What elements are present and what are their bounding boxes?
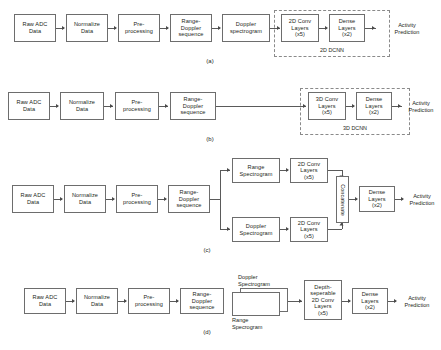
panel-c-node-normalize-label: Normalize Data (72, 192, 98, 205)
panel-c-node-dense-label: Dense Layers (x2) (368, 189, 385, 209)
panel-c-node-doppler-spectrogram: Doppler Spectrogram (232, 217, 280, 242)
panel-d-node-raw-adc: Raw ADC Data (24, 288, 66, 314)
panel-a-node-dense: Dense Layers (x2) (329, 14, 365, 42)
panel-d-arrow-1 (72, 299, 75, 303)
panel-c-node-preprocessing-label: Pre- processing (123, 192, 151, 205)
panel-b-arrow-5 (352, 104, 355, 108)
panel-b-arrow-2 (110, 104, 113, 108)
panel-c-node-rd-sequence: Range- Doppler sequence (168, 185, 210, 213)
panel-c-arrow-branch-top (227, 168, 230, 172)
panel-c-node-raw-adc-label: Raw ADC Data (21, 192, 46, 205)
panel-d-doppler-spectrogram-label: Doppler Spectrogram (238, 274, 296, 288)
panel-b-group-label: 3D DCNN (300, 125, 410, 131)
panel-c-node-range-spectrogram: Range Spectrogram (232, 158, 280, 183)
panel-d-node-raw-adc-label: Raw ADC Data (33, 294, 58, 307)
panel-b-node-preprocessing: Pre- processing (115, 92, 159, 120)
panel-d-arrow-2 (124, 299, 127, 303)
panel-a-arrow-2 (114, 26, 117, 30)
panel-b-node-rd-sequence-label: Range- Doppler sequence (180, 96, 205, 116)
panel-b-node-raw-adc-label: Raw ADC Data (17, 99, 42, 112)
panel-c-node-range-spectrogram-label: Range Spectrogram (239, 164, 272, 177)
panel-c-merge-bottom-line (328, 229, 342, 230)
panel-c-arrow-top-1 (286, 168, 289, 172)
panel-b-output-activity-prediction: Activity Prediction (400, 100, 441, 114)
panel-a-node-raw-adc-label: Raw ADC Data (23, 21, 48, 34)
panel-d-arrow-stack-conv (299, 299, 302, 303)
panel-b-node-3d-conv: 3D Conv Layers (x5) (308, 92, 346, 120)
panel-b-node-rd-sequence: Range- Doppler sequence (170, 92, 216, 120)
panel-d-caption: (d) (182, 329, 232, 335)
panel-a-node-rd-sequence-label: Range- Doppler sequence (178, 18, 203, 38)
panel-b-arrow-1 (56, 104, 59, 108)
panel-a-arrow-7 (372, 26, 375, 30)
panel-a-arrow-1 (62, 26, 65, 30)
panel-d-arrow-conv-dense (348, 299, 351, 303)
panel-d-node-depthwise-conv-label: Depth- seperable 2D Conv Layers (x5) (310, 284, 335, 317)
panel-d-node-preprocessing-label: Pre- processing (135, 294, 163, 307)
panel-a-node-doppler-spectrogram: Doppler spectrogram (222, 14, 270, 42)
panel-a-arrow-3 (166, 26, 169, 30)
panel-b-node-preprocessing-label: Pre- processing (123, 99, 151, 112)
panel-a-node-normalize: Normalize Data (66, 14, 108, 42)
panel-d-node-depthwise-conv: Depth- seperable 2D Conv Layers (x5) (304, 280, 342, 320)
panel-b-node-dense: Dense Layers (x2) (356, 92, 392, 120)
panel-c-arrow-1 (60, 197, 63, 201)
panel-a-node-2d-conv-label: 2D Conv Layers (x5) (289, 18, 311, 38)
panel-a-node-raw-adc: Raw ADC Data (14, 14, 56, 42)
panel-c-caption: (c) (182, 247, 232, 253)
panel-b-node-normalize: Normalize Data (60, 92, 104, 120)
panel-c-arrow-concat-dense (355, 197, 358, 201)
panel-d-range-spectrogram-plane (232, 292, 280, 316)
panel-c-node-2d-conv-top: 2D Conv Layers (x5) (290, 158, 328, 183)
panel-a-node-doppler-spectrogram-label: Doppler spectrogram (230, 21, 262, 34)
panel-b-node-normalize-label: Normalize Data (69, 99, 95, 112)
panel-d-output-activity-prediction: Activity Prediction (396, 295, 438, 309)
panel-c-arrow-branch-bottom (227, 227, 230, 231)
panel-c-node-doppler-spectrogram-label: Doppler Spectrogram (239, 223, 272, 236)
panel-a-arrow-4 (218, 26, 221, 30)
panel-a-node-dense-label: Dense Layers (x2) (338, 18, 355, 38)
panel-b-node-3d-conv-label: 3D Conv Layers (x5) (316, 96, 338, 116)
panel-c-node-2d-conv-bottom: 2D Conv Layers (x5) (290, 217, 328, 242)
panel-b-arrow-long (303, 104, 306, 108)
panel-b-arrow-3 (165, 104, 168, 108)
panel-c-node-concatenate: Concatenate (336, 176, 349, 223)
panel-c-node-dense: Dense Layers (x2) (359, 186, 395, 212)
panel-d-node-rd-sequence: Range- Doppler sequence (180, 288, 224, 314)
panel-b-node-dense-label: Dense Layers (x2) (365, 96, 382, 116)
panel-c-arrow-3 (164, 197, 167, 201)
panel-a-output-activity-prediction: Activity Prediction (378, 22, 436, 36)
panel-c-node-normalize: Normalize Data (64, 185, 106, 213)
panel-d-range-spectrogram-label: Range Specrogram (232, 317, 290, 331)
panel-b-connector-long (216, 106, 306, 107)
panel-a-node-normalize-label: Normalize Data (74, 21, 100, 34)
panel-d-node-dense-label: Dense Layers (x2) (361, 291, 378, 311)
panel-d-node-normalize-label: Normalize Data (84, 294, 110, 307)
panel-a-arrow-6 (325, 26, 328, 30)
panel-a-node-preprocessing: Pre- processing (118, 14, 160, 42)
panel-a-group-label: 2D DCNN (274, 47, 390, 53)
panel-c-merge-top-line (328, 170, 342, 171)
panel-d-arrow-3 (176, 299, 179, 303)
panel-c-split-stem (210, 199, 220, 200)
panel-d-node-normalize: Normalize Data (76, 288, 118, 314)
panel-a-caption: (a) (185, 58, 235, 64)
panel-d-node-rd-sequence-label: Range- Doppler sequence (189, 291, 214, 311)
panel-c-node-2d-conv-bottom-label: 2D Conv Layers (x5) (298, 220, 320, 240)
panel-c-node-raw-adc: Raw ADC Data (12, 185, 54, 213)
panel-d-node-dense: Dense Layers (x2) (352, 288, 388, 314)
panel-c-node-preprocessing: Pre- processing (116, 185, 158, 213)
panel-c-output-activity-prediction: Activity Prediction (402, 193, 441, 207)
panel-c-split-riser (220, 170, 221, 229)
panel-c-arrow-2 (112, 197, 115, 201)
panel-a-node-preprocessing-label: Pre- processing (125, 21, 153, 34)
panel-a-arrow-5 (277, 26, 280, 30)
panel-c-arrow-bottom-1 (286, 227, 289, 231)
panel-d-node-preprocessing: Pre- processing (128, 288, 170, 314)
panel-b-caption: (b) (185, 136, 235, 142)
panel-a-node-2d-conv: 2D Conv Layers (x5) (281, 14, 319, 42)
panel-b-node-raw-adc: Raw ADC Data (8, 92, 50, 120)
figure-canvas: 2D DCNN Raw ADC Data Normalize Data Pre-… (0, 0, 441, 350)
panel-c-node-rd-sequence-label: Range- Doppler sequence (176, 189, 201, 209)
panel-c-node-concatenate-label: Concatenate (340, 184, 346, 216)
